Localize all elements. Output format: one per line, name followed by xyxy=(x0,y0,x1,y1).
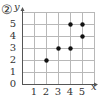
x-tick-1: 1 xyxy=(29,87,39,96)
y-tick-2: 2 xyxy=(8,55,18,65)
data-point xyxy=(80,22,84,26)
data-point xyxy=(68,46,72,50)
y-axis-label: y xyxy=(14,2,20,12)
x-tick-2: 2 xyxy=(41,87,51,96)
y-tick-5: 5 xyxy=(8,19,18,29)
data-point xyxy=(56,46,60,50)
y-tick-0: 0 xyxy=(8,79,18,89)
y-tick-4: 4 xyxy=(8,31,18,41)
data-point xyxy=(68,22,72,26)
y-tick-3: 3 xyxy=(8,43,18,53)
y-tick-1: 1 xyxy=(8,67,18,77)
x-tick-4: 4 xyxy=(65,87,75,96)
x-tick-5: 5 xyxy=(77,87,87,96)
data-point xyxy=(80,34,84,38)
x-tick-3: 3 xyxy=(53,87,63,96)
data-point xyxy=(44,58,48,62)
x-axis-label: x xyxy=(91,82,97,92)
problem-number: ② xyxy=(1,3,13,16)
y-axis-arrow-icon xyxy=(21,7,25,11)
